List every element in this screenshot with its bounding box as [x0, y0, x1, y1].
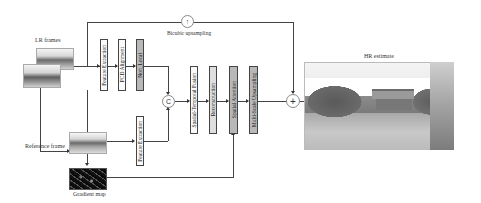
top-feature-extraction-box: Feature Extraction [100, 39, 108, 91]
reference-frame-label: Reference frame [25, 143, 65, 149]
connector [144, 66, 168, 67]
ref-up-line [87, 90, 88, 132]
connector [168, 66, 169, 93]
connector [144, 141, 168, 142]
connector [233, 134, 234, 178]
arrow-into-concat-bottom [166, 107, 170, 110]
multi-scale-upsampling-box: Multi-Scale Upsampling [249, 66, 258, 134]
connector [168, 109, 169, 141]
connector [107, 141, 134, 142]
lr-down-line [40, 88, 41, 151]
arrow-down [85, 163, 89, 166]
skip-line-down-to-sum [293, 22, 294, 92]
hr-estimate-label: HR estimate [364, 53, 394, 59]
arrow-right [132, 139, 135, 143]
reference-frame-image [69, 132, 107, 154]
upsampling-label: Bicubic upsampling [167, 30, 211, 36]
connector [107, 177, 233, 178]
hr-right-wall [430, 62, 454, 150]
pcd-alignment-box: PCD Alignment [118, 39, 126, 91]
sum-node: + [286, 94, 300, 108]
lr-frames-label: LR frames [35, 37, 61, 43]
hr-building-roof [372, 89, 414, 99]
lr-frame-image-front [23, 64, 61, 88]
connector [258, 101, 287, 102]
spatial-attention-box: Spatial Attention [229, 66, 238, 134]
non-local-box: Non_Local [136, 39, 144, 91]
bottom-feature-extraction-box: Feature Extraction [136, 116, 144, 166]
upsampling-node: ↑ [181, 15, 194, 28]
gradient-map-image [69, 168, 107, 190]
skip-line-vertical-left [87, 22, 88, 67]
lr-to-ref-line [40, 151, 69, 152]
hr-building-base [376, 99, 412, 110]
gradient-map-label: Gradient map [73, 191, 106, 197]
spatial-temporal-fusion-box: Spatial-Temporal Fusion [190, 66, 198, 134]
reconstruction-box: Reconstruction [209, 66, 217, 134]
up-arrow-icon: ↑ [186, 18, 190, 25]
